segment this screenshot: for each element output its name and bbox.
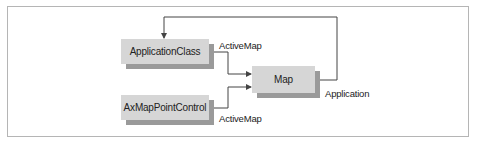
edge-label-activemap-top: ActiveMap [219,40,262,51]
edge-label-application: Application [325,88,369,99]
edge-appclass-to-map [214,52,251,74]
node-map: Map [252,66,315,93]
edge-label-activemap-bottom: ActiveMap [219,113,262,124]
edge-axmap-to-map [214,87,251,108]
node-label: Map [274,74,293,85]
node-label: ApplicationClass [130,46,201,57]
node-application-class: ApplicationClass [121,39,209,64]
node-ax-map-point-control: AxMapPointControl [121,95,209,120]
node-label: AxMapPointControl [124,102,207,113]
